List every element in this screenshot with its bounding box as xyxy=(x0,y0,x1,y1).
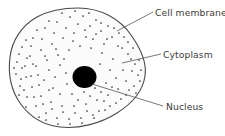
cell-membrane-outline xyxy=(9,8,145,127)
cell-membrane-label: Cell membrane xyxy=(155,7,225,18)
cytoplasm-label: Cytoplasm xyxy=(163,49,213,60)
cell-diagram-canvas: Cell membrane Cytoplasm Nucleus xyxy=(0,0,225,136)
cell-diagram-svg: Cell membrane Cytoplasm Nucleus xyxy=(0,0,225,136)
nucleus-label: Nucleus xyxy=(166,101,203,112)
cell-membrane-leader-line xyxy=(117,12,153,31)
nucleus-shape xyxy=(73,66,97,88)
